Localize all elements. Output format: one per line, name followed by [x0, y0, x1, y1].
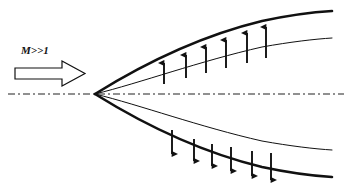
lower-shock-wave: [95, 94, 332, 177]
upper-shock-wave: [95, 11, 332, 94]
freestream-flow-arrow: [15, 61, 85, 86]
flow-diagram-figure: M>>1: [0, 0, 351, 189]
lower-body-surface: [95, 94, 332, 150]
freestream-flow-arrow-shape: [15, 61, 85, 86]
diagram-canvas: [0, 0, 351, 189]
freestream-mach-label: M>>1: [21, 44, 49, 57]
upper-body-surface: [95, 38, 332, 94]
